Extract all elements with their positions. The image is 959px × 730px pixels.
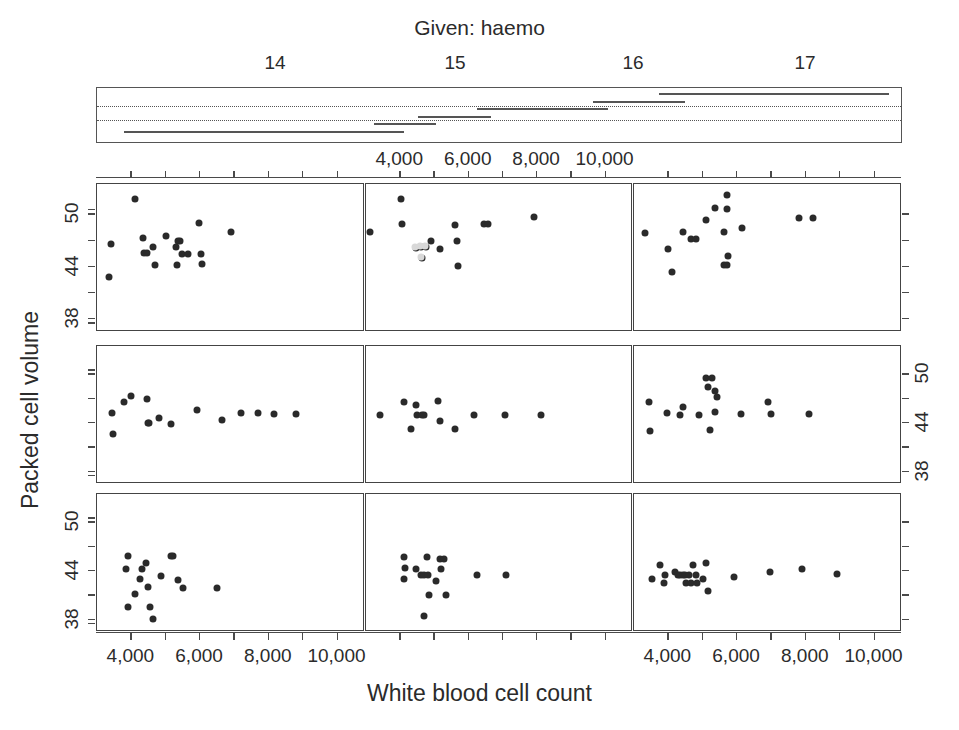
axis-tick xyxy=(805,633,806,640)
data-point xyxy=(400,399,407,406)
data-point xyxy=(124,552,131,559)
data-point xyxy=(656,561,663,568)
axis-tick xyxy=(902,446,909,447)
data-point xyxy=(455,262,462,269)
axis-tick xyxy=(902,398,909,399)
given-interval-bar-10[interactable] xyxy=(659,93,889,95)
axis-tick xyxy=(502,171,503,177)
data-point xyxy=(397,195,404,202)
data-point xyxy=(196,220,203,227)
axis-tick xyxy=(536,633,537,640)
given-tick-label-1: 15 xyxy=(444,52,465,74)
data-point xyxy=(711,408,718,415)
data-point xyxy=(197,250,204,257)
given-interval-bar-9[interactable] xyxy=(626,101,684,103)
x-tick-label-top-2: 8,000 xyxy=(512,148,560,170)
axis-tick xyxy=(902,594,909,595)
axis-tick xyxy=(88,619,95,620)
data-point xyxy=(663,410,670,417)
data-point xyxy=(795,214,802,221)
data-point xyxy=(400,553,407,560)
axis-tick xyxy=(337,633,338,640)
data-point xyxy=(170,552,177,559)
y-tick-label-right-0: 38 xyxy=(911,460,933,481)
axis-tick xyxy=(88,398,95,399)
scatter-panel-r1-c2[interactable] xyxy=(633,345,901,483)
data-point xyxy=(421,612,428,619)
data-point xyxy=(765,399,772,406)
axis-tick xyxy=(88,570,95,571)
data-point xyxy=(723,192,730,199)
data-point xyxy=(138,566,145,573)
x-tick-label-top-1: 6,000 xyxy=(444,148,492,170)
data-point xyxy=(131,590,138,597)
axis-tick xyxy=(902,619,909,620)
axis-tick xyxy=(570,633,571,640)
data-point xyxy=(214,585,221,592)
x-axis-title: White blood cell count xyxy=(0,680,959,707)
given-interval-bar-1[interactable] xyxy=(298,131,404,133)
data-point xyxy=(703,216,710,223)
given-interval-bar-3[interactable] xyxy=(404,123,437,125)
axis-tick xyxy=(88,422,95,423)
axis-tick xyxy=(902,570,909,571)
data-point xyxy=(668,268,675,275)
data-point xyxy=(123,566,130,573)
data-point xyxy=(140,234,147,241)
y-axis-title: Packed cell volume xyxy=(17,311,44,509)
scatter-panel-r2-c0[interactable] xyxy=(96,493,364,631)
axis-tick xyxy=(570,171,571,177)
given-panel-title: Given: haemo xyxy=(0,16,959,40)
scatter-panel-r0-c0[interactable] xyxy=(96,183,364,331)
axis-tick xyxy=(605,633,606,640)
axis-tick xyxy=(502,633,503,640)
data-point xyxy=(177,238,184,245)
axis-tick xyxy=(770,171,771,177)
data-point xyxy=(721,228,728,235)
data-point xyxy=(724,253,731,260)
data-point xyxy=(142,560,149,567)
data-point xyxy=(144,583,151,590)
axis-tick xyxy=(199,171,200,177)
data-point xyxy=(833,570,840,577)
data-point xyxy=(809,214,816,221)
data-point xyxy=(106,274,113,281)
given-interval-bar-7[interactable] xyxy=(508,108,608,110)
axis-tick xyxy=(88,322,95,323)
data-point xyxy=(474,572,481,579)
axis-tick xyxy=(88,240,95,241)
axis-tick xyxy=(702,633,703,640)
data-point xyxy=(453,238,460,245)
given-interval-bar-5[interactable] xyxy=(444,116,491,118)
scatter-panel-r0-c1[interactable] xyxy=(365,183,632,331)
scatter-panel-r1-c0[interactable] xyxy=(96,345,364,483)
data-point xyxy=(434,398,441,405)
data-point-faint xyxy=(422,242,429,249)
data-point xyxy=(293,411,300,418)
data-point xyxy=(162,233,169,240)
scatter-panel-r0-c2[interactable] xyxy=(633,183,901,331)
axis-tick xyxy=(88,517,95,518)
scatter-panel-r1-c1[interactable] xyxy=(365,345,632,483)
given-panel-box[interactable] xyxy=(96,87,902,143)
data-point xyxy=(696,412,703,419)
axis-tick xyxy=(902,373,909,374)
scatter-panel-r2-c1[interactable] xyxy=(365,493,632,631)
axis-tick xyxy=(805,171,806,177)
axis-tick xyxy=(736,633,737,640)
data-point xyxy=(438,566,445,573)
data-point xyxy=(699,576,706,583)
data-point xyxy=(131,195,138,202)
data-point xyxy=(198,261,205,268)
axis-tick xyxy=(88,318,95,319)
scatter-panel-r2-c2[interactable] xyxy=(633,493,901,631)
data-point xyxy=(108,241,115,248)
data-point xyxy=(484,221,491,228)
given-tick-label-3: 17 xyxy=(794,52,815,74)
data-point xyxy=(228,228,235,235)
data-point xyxy=(501,412,508,419)
axis-tick xyxy=(839,171,840,177)
axis-tick xyxy=(433,171,434,177)
data-point xyxy=(692,235,699,242)
axis-line xyxy=(96,177,901,178)
